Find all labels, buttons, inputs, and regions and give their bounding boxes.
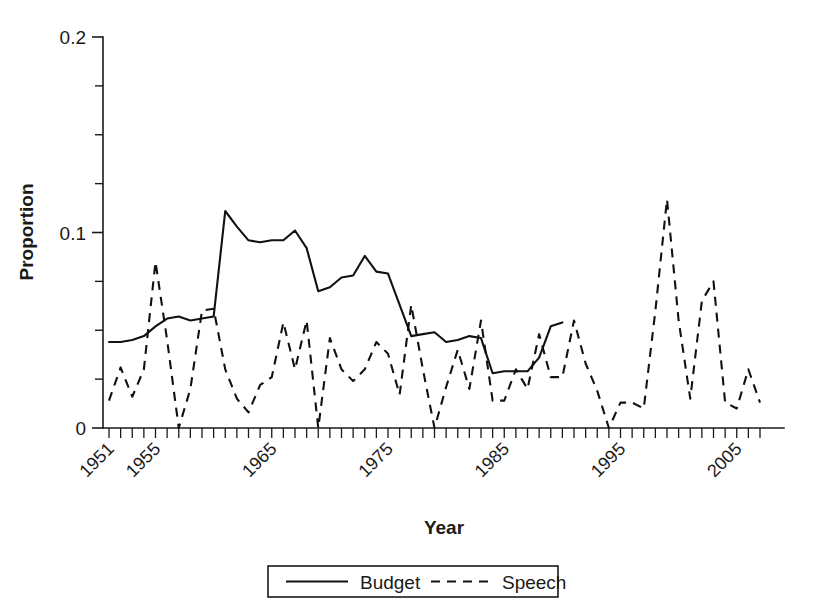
series-line-budget: [109, 211, 562, 373]
x-axis-tick-labels: 1951195519651975198519952005: [75, 439, 745, 481]
series-line-speech: [109, 199, 760, 428]
x-axis-title: Year: [424, 517, 465, 538]
x-tick-label: 1975: [354, 439, 396, 481]
y-axis-title: Proportion: [16, 183, 37, 280]
x-axis: 1951195519651975198519952005: [75, 428, 784, 481]
x-axis-ticks: [109, 428, 760, 438]
y-tick-label: 0.2: [60, 27, 86, 48]
chart-figure: 00.10.2 1951195519651975198519952005 Pro…: [0, 0, 814, 616]
legend-label-budget: Budget: [360, 572, 421, 593]
y-axis: 00.10.2: [60, 27, 103, 439]
y-tick-label: 0.1: [60, 223, 86, 244]
y-axis-tick-labels: 00.10.2: [60, 27, 86, 439]
line-chart: 00.10.2 1951195519651975198519952005 Pro…: [0, 0, 814, 616]
x-tick-label: 1985: [471, 439, 513, 481]
x-tick-label: 2005: [703, 439, 745, 481]
x-tick-label: 1995: [587, 439, 629, 481]
x-tick-label: 1965: [238, 439, 280, 481]
y-axis-ticks: [92, 37, 103, 428]
x-tick-label: 1955: [122, 439, 164, 481]
y-tick-label: 0: [75, 418, 86, 439]
series-layer: [109, 199, 760, 428]
legend-label-speech: Speech: [502, 572, 566, 593]
chart-legend: BudgetSpeech: [268, 566, 566, 597]
x-tick-label: 1951: [75, 439, 117, 481]
